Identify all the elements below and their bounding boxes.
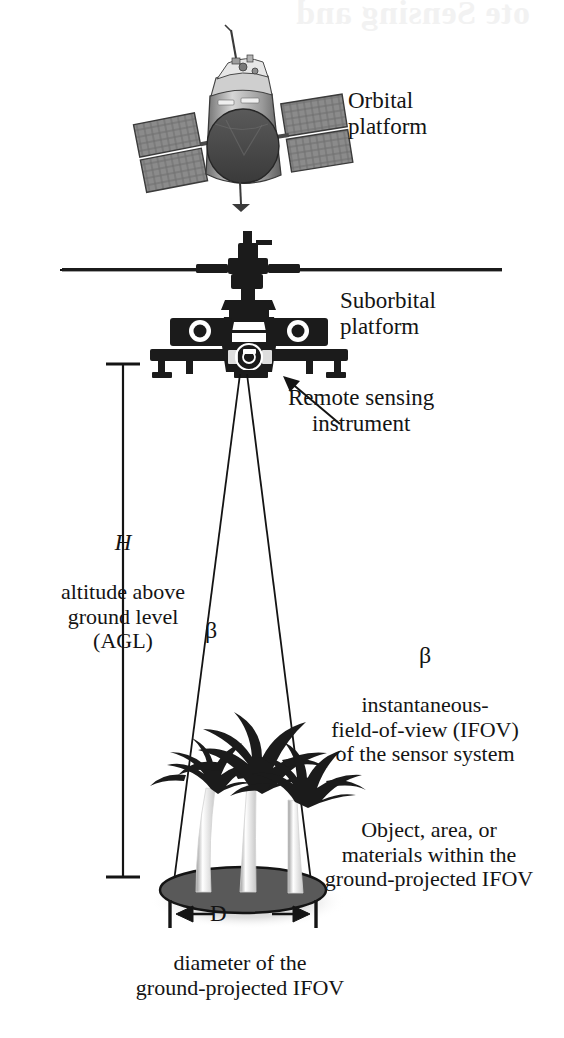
- ifov-description: instantaneous- field-of-view (IFOV) of t…: [331, 692, 519, 766]
- suborbital-platform-label: Suborbital platform: [340, 288, 436, 340]
- remote-sensing-instrument-label: Remote sensing instrument: [288, 385, 434, 437]
- altitude-description: altitude above ground level (AGL): [61, 579, 185, 653]
- altitude-label-group: H altitude above ground level (AGL): [10, 505, 236, 654]
- ground-object-label: Object, area, or materials within the gr…: [300, 818, 558, 892]
- remote-sensing-ifov-figure: ote Sensing and: [0, 0, 564, 1038]
- beta-symbol-in-cone: β: [205, 617, 217, 644]
- altitude-symbol: H: [115, 530, 132, 555]
- orbital-platform-label: Orbital platform: [348, 88, 427, 140]
- helicopter-icon: [62, 231, 502, 378]
- sensor-turret-icon: [222, 344, 276, 378]
- beta-symbol-ifov: β: [419, 642, 431, 668]
- ifov-label-group: β instantaneous- field-of-view (IFOV) of…: [296, 617, 554, 767]
- diameter-description-label: diameter of the ground-projected IFOV: [60, 951, 420, 1000]
- satellite-icon: [134, 25, 353, 212]
- diameter-symbol: D: [210, 901, 227, 927]
